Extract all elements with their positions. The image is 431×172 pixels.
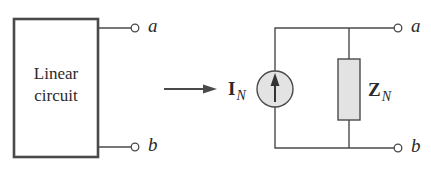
right-terminal-a-label: a <box>411 15 421 37</box>
norton-impedance-symbol: Z <box>368 79 381 100</box>
left-terminal-a-label: a <box>148 15 158 37</box>
linear-circuit-label-line1: Linear <box>14 63 98 85</box>
left-terminal-b-label: b <box>148 134 158 156</box>
norton-impedance-subscript: N <box>382 89 391 104</box>
norton-current-symbol: I <box>228 78 235 99</box>
norton-current-label: IN <box>228 78 246 100</box>
bottom-rail <box>275 107 394 148</box>
right-terminal-b-icon <box>394 144 402 152</box>
linear-circuit-label-line2: circuit <box>14 85 98 107</box>
norton-impedance-label: ZN <box>368 79 391 101</box>
right-terminal-a-icon <box>394 24 402 32</box>
impedance-element-icon <box>338 59 360 120</box>
norton-equivalent-diagram: Linear circuit a b IN ZN a b <box>0 0 431 172</box>
top-rail <box>275 28 394 71</box>
right-arrow-icon <box>164 85 217 94</box>
current-source-icon <box>257 71 293 107</box>
linear-circuit-label: Linear circuit <box>14 63 98 107</box>
left-terminal-a-icon <box>131 24 139 32</box>
norton-current-subscript: N <box>236 88 245 103</box>
right-terminal-b-label: b <box>411 135 421 157</box>
left-terminal-b-icon <box>131 143 139 151</box>
